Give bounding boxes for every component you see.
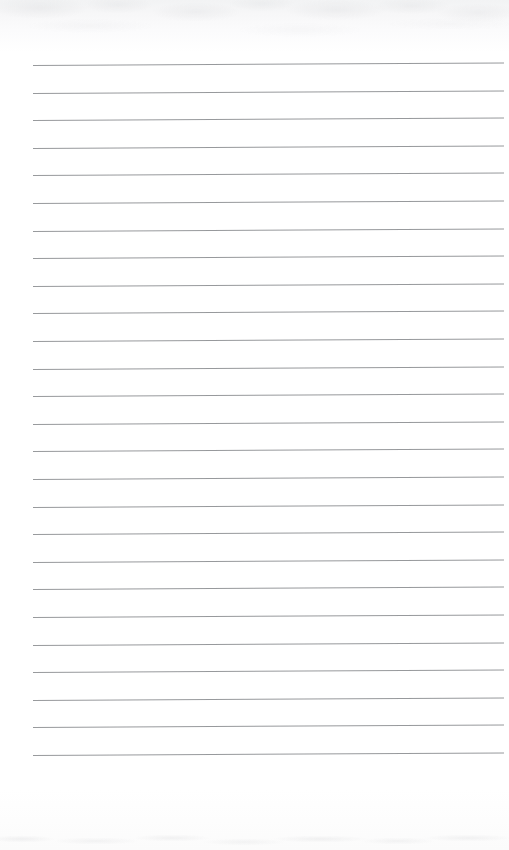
- rule-line: [33, 284, 504, 287]
- rule-line: [33, 367, 504, 370]
- scan-noise-bottom-band: [0, 820, 509, 850]
- rule-line: [33, 753, 504, 756]
- rule-line: [33, 394, 504, 397]
- rule-line: [33, 560, 504, 563]
- rule-line: [33, 615, 504, 618]
- rule-line: [33, 229, 504, 232]
- rule-line: [33, 201, 504, 204]
- rule-line: [33, 339, 504, 342]
- rule-line: [33, 670, 504, 673]
- rule-line: [33, 118, 504, 121]
- rule-line: [33, 422, 504, 425]
- ruled-lines-group: [0, 0, 509, 850]
- rule-line: [33, 63, 504, 66]
- rule-line: [33, 505, 504, 508]
- rule-line: [33, 477, 504, 480]
- rule-line: [33, 725, 504, 728]
- rule-line: [33, 587, 504, 590]
- rule-line: [33, 311, 504, 314]
- rule-line: [33, 173, 504, 176]
- rule-line: [33, 698, 504, 701]
- rule-line: [33, 146, 504, 149]
- scanned-page: [0, 0, 509, 850]
- rule-line: [33, 643, 504, 646]
- rule-line: [33, 91, 504, 94]
- rule-line: [33, 256, 504, 259]
- rule-line: [33, 532, 504, 535]
- rule-line: [33, 449, 504, 452]
